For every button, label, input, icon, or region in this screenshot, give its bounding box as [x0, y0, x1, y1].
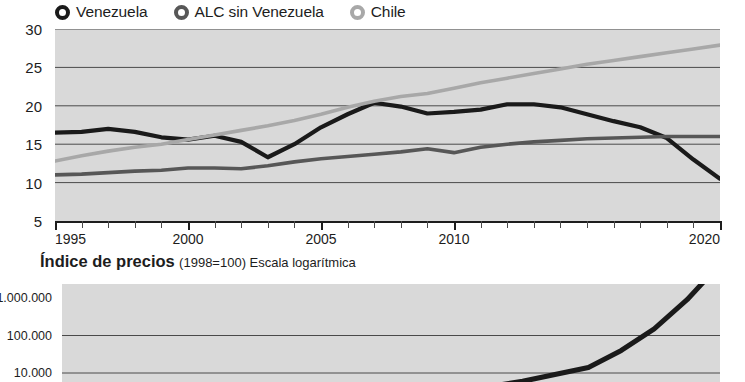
chart1-x-tick-label: 2005 [305, 231, 336, 247]
legend-item-chile[interactable]: Chile [350, 3, 406, 21]
chart1-x-tick [268, 221, 269, 228]
chart1-x-tick-label: 1995 [55, 231, 86, 247]
chart1-x-tick [135, 221, 136, 228]
chart1-x-tick [348, 221, 349, 228]
chart2-svg [62, 284, 720, 382]
chart1-x-tick [587, 221, 588, 228]
chart1-x-tick-label: 2020 [689, 231, 720, 247]
chart1-y-tick-label: 30 [25, 21, 42, 38]
chart1-x-tick [534, 221, 535, 228]
chart1-x-tick [108, 221, 109, 228]
chart1-x-tick [55, 221, 57, 230]
chart1-x-tick [481, 221, 482, 228]
chart1-x-tick [667, 221, 668, 228]
legend-label-alc-sin-venezuela: ALC sin Venezuela [195, 3, 324, 21]
chart1-y-tick-label: 10 [25, 174, 42, 191]
chart1-svg [55, 29, 720, 221]
chart-price-index: 10.000100.0001.000.000 [0, 276, 745, 382]
chart2-title: Índice de precios (1998=100) Escala loga… [40, 252, 356, 271]
chart1-x-tick [215, 221, 216, 228]
chart1-y-tick-label: 20 [25, 97, 42, 114]
chart1-x-tick [161, 221, 162, 228]
chart1-y-axis-labels: 51015202530 [0, 22, 50, 222]
chart1-x-tick-label: 2000 [172, 231, 203, 247]
chart1-y-tick-label: 5 [34, 213, 42, 230]
infographic-root: Venezuela ALC sin Venezuela Chile 510152… [0, 0, 745, 382]
chart1-x-tick [241, 221, 242, 228]
circle-marker-icon [174, 5, 189, 20]
chart1-x-tick [560, 221, 561, 228]
chart2-y-tick-label: 10.000 [14, 366, 52, 380]
chart-legend: Venezuela ALC sin Venezuela Chile [55, 0, 406, 24]
chart1-plot-area [55, 29, 720, 221]
chart1-x-tick [82, 221, 83, 228]
chart1-x-tick [640, 221, 641, 228]
chart2-title-main: Índice de precios [40, 252, 175, 270]
chart1-x-tick [188, 221, 190, 230]
chart1-x-tick [614, 221, 615, 228]
chart1-x-tick-label: 2010 [438, 231, 469, 247]
chart1-axis-line [55, 221, 720, 223]
chart1-x-tick [454, 221, 456, 230]
legend-label-chile: Chile [371, 3, 406, 21]
chart1-y-tick-label: 25 [25, 59, 42, 76]
chart2-title-sub: (1998=100) Escala logarítmica [179, 255, 356, 270]
chart1-x-tick [693, 221, 694, 228]
chart1-x-tick [401, 221, 402, 228]
legend-item-alc-sin-venezuela[interactable]: ALC sin Venezuela [174, 3, 324, 21]
chart1-x-axis-labels: 19952000200520102020 [55, 231, 720, 251]
chart2-plot-area [62, 284, 720, 382]
chart1-x-tick [427, 221, 428, 228]
chart2-y-axis-labels: 10.000100.0001.000.000 [0, 276, 58, 382]
legend-label-venezuela: Venezuela [76, 3, 148, 21]
chart1-x-tick [321, 221, 323, 230]
legend-item-venezuela[interactable]: Venezuela [55, 3, 148, 21]
chart1-y-tick-label: 15 [25, 136, 42, 153]
chart2-y-tick-label: 100.000 [7, 329, 52, 343]
circle-marker-icon [55, 5, 70, 20]
chart1-x-tick [720, 221, 722, 230]
chart1-x-tick [374, 221, 375, 228]
chart1-x-tick [294, 221, 295, 228]
chart1-x-tick [507, 221, 508, 228]
chart-tax-revenue: 51015202530 19952000200520102020 [0, 22, 745, 240]
chart2-y-tick-label: 1.000.000 [0, 291, 52, 305]
circle-marker-icon [350, 5, 365, 20]
chart1-x-axis [55, 221, 720, 230]
